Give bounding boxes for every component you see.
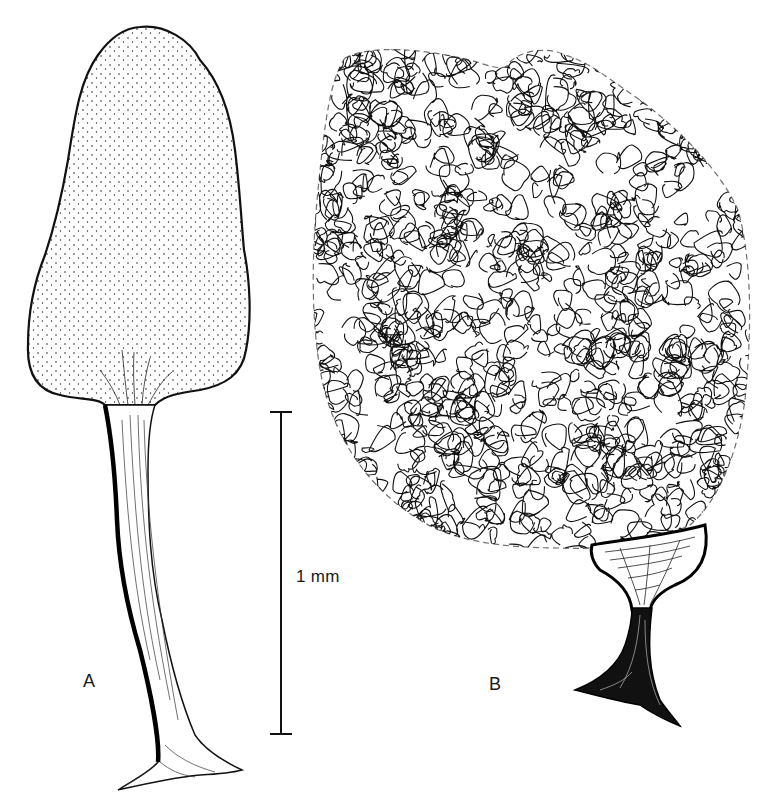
specimen-a-head <box>28 27 250 405</box>
specimen-b <box>298 24 774 726</box>
specimen-b-stalk <box>575 608 680 726</box>
specimen-a <box>28 27 250 790</box>
scale-bar <box>270 412 292 734</box>
panel-label-a: A <box>83 671 95 692</box>
specimen-b-capillitium <box>298 24 774 572</box>
specimen-b-cup <box>591 525 706 610</box>
illustration-canvas <box>0 0 774 804</box>
panel-label-b: B <box>489 674 501 695</box>
scale-bar-label: 1 mm <box>296 567 340 587</box>
